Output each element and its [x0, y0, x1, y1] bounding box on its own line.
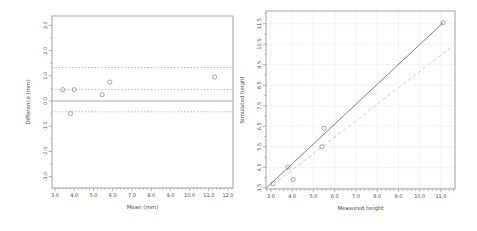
figure-canvas: 3.04.05.06.07.08.09.010.011.012.0-3.0-2.… — [0, 0, 477, 231]
x-tick-label: 10.0 — [184, 192, 195, 198]
x-tick-label: 7.0 — [352, 193, 360, 199]
y-tick-label: 8.5 — [257, 81, 263, 89]
y-tick-label: 3.0 — [43, 21, 49, 29]
data-point — [322, 126, 326, 130]
y-tick-label: 4.5 — [257, 163, 263, 171]
x-tick-label: 3.0 — [267, 193, 275, 199]
x-tick-label: 9.0 — [166, 192, 174, 198]
plot-box — [52, 16, 233, 188]
data-point — [100, 93, 104, 97]
x-tick-label: 3.0 — [51, 192, 59, 198]
x-tick-label: 11.0 — [435, 193, 446, 199]
y-tick-label: 11.5 — [257, 18, 263, 29]
y-tick-label: 3.5 — [257, 184, 263, 192]
y-tick-label: 1.0 — [43, 72, 49, 80]
x-tick-label: 5.0 — [309, 193, 317, 199]
x-tick-label: 4.0 — [288, 193, 296, 199]
x-tick-label: 7.0 — [128, 192, 136, 198]
y-tick-label: 7.5 — [257, 102, 263, 110]
data-point — [68, 112, 72, 116]
x-tick-label: 11.0 — [203, 192, 214, 198]
x-tick-label: 6.0 — [331, 193, 339, 199]
regression-line — [267, 23, 443, 188]
data-point — [291, 177, 295, 181]
y-tick-label: -2.0 — [43, 147, 49, 157]
x-tick-label: 12.0 — [222, 192, 233, 198]
y-tick-label: 6.5 — [257, 122, 263, 130]
y-tick-label: -3.0 — [43, 172, 49, 182]
y-tick-label: 5.5 — [257, 143, 263, 151]
x-axis-title: Mean (mm) — [127, 204, 159, 210]
x-tick-label: 10.0 — [414, 193, 425, 199]
x-axis-title: Measured height — [337, 205, 384, 212]
x-tick-label: 8.0 — [147, 192, 155, 198]
reference-dashed-line — [278, 45, 453, 180]
y-axis-title: Difference (mm) — [25, 79, 31, 124]
y-tick-label: 0.0 — [43, 97, 49, 105]
y-axis-title: Simulated height — [240, 76, 246, 124]
x-tick-label: 5.0 — [90, 192, 98, 198]
bland-altman-plot: 3.04.05.06.07.08.09.010.011.012.0-3.0-2.… — [0, 0, 240, 231]
x-tick-label: 8.0 — [373, 193, 381, 199]
x-tick-label: 4.0 — [70, 192, 78, 198]
y-tick-label: 2.0 — [43, 47, 49, 55]
x-tick-label: 6.0 — [109, 192, 117, 198]
simulated-vs-measured-plot: 3.04.05.06.07.08.09.010.011.03.54.55.56.… — [240, 0, 477, 231]
y-tick-label: 9.5 — [257, 61, 263, 69]
data-point — [212, 75, 216, 79]
data-point — [108, 80, 112, 84]
y-tick-label: -1.0 — [43, 121, 49, 131]
y-tick-label: 10.5 — [257, 39, 263, 50]
x-tick-label: 9.0 — [394, 193, 402, 199]
